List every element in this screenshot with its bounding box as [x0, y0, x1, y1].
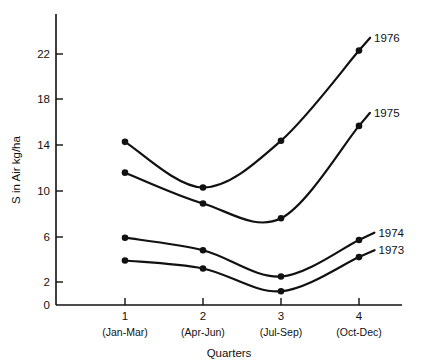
- y-tick-label-0: 0: [44, 299, 50, 311]
- y-tick-label-10: 10: [37, 185, 50, 197]
- data-point-1974-q1: [122, 234, 129, 241]
- data-point-1976-q1: [122, 139, 129, 146]
- data-point-1975-q3: [278, 215, 285, 222]
- line-chart: 22 18 14 10 6 2 0 S in Air kg/ha 1 2 3 4…: [0, 0, 434, 363]
- series-label-layer: 1973197419751976: [374, 32, 405, 257]
- data-point-1973-q3: [278, 288, 285, 295]
- x-sublabel-q3: (Jul-Sep): [260, 326, 303, 338]
- data-point-1974-q3: [278, 273, 285, 280]
- data-point-1974-q2: [200, 247, 207, 254]
- series-label-1974: 1974: [378, 227, 404, 239]
- series-label-1975: 1975: [374, 107, 400, 119]
- y-tick-label-14: 14: [37, 139, 50, 151]
- data-point-1976-q3: [278, 137, 285, 144]
- x-sublabel-q4: (Oct-Dec): [336, 326, 382, 338]
- data-point-1973-q1: [122, 257, 129, 264]
- x-sublabel-q2: (Apr-Jun): [181, 326, 225, 338]
- series-label-1973: 1973: [379, 244, 405, 256]
- x-tick-label-1: 1: [122, 310, 128, 322]
- y-tick-label-18: 18: [37, 93, 50, 105]
- x-tick-label-2: 2: [200, 310, 206, 322]
- y-tick-label-22: 22: [37, 48, 50, 60]
- y-tick-label-6: 6: [44, 231, 50, 243]
- x-sublabel-q1: (Jan-Mar): [102, 326, 148, 338]
- x-axis-title: Quarters: [207, 347, 252, 359]
- y-tick-label-2: 2: [44, 276, 50, 288]
- series-layer: [122, 38, 375, 295]
- y-axis-title: S in Air kg/ha: [10, 136, 22, 204]
- data-point-1975-q1: [122, 169, 129, 176]
- data-point-1975-q2: [200, 200, 207, 207]
- x-tick-label-4: 4: [356, 310, 363, 322]
- data-point-1973-q4: [356, 254, 363, 261]
- data-point-1974-q4: [356, 237, 363, 244]
- chart-container: 22 18 14 10 6 2 0 S in Air kg/ha 1 2 3 4…: [0, 0, 434, 363]
- data-point-1976-q4: [356, 47, 363, 54]
- x-axis-ticks: [125, 298, 359, 305]
- series-label-1976: 1976: [374, 32, 400, 44]
- data-point-1976-q2: [200, 184, 207, 191]
- series-line-1976: [125, 38, 370, 188]
- data-point-1973-q2: [200, 265, 207, 272]
- x-tick-label-3: 3: [278, 310, 284, 322]
- data-point-1975-q4: [356, 123, 363, 130]
- y-axis-ticks: [56, 54, 63, 282]
